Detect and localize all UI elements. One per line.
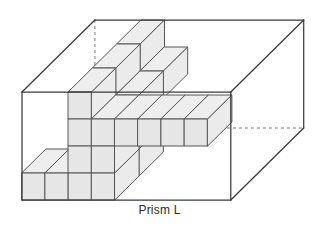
cube-face-front [115, 119, 138, 146]
cube-face-front [68, 92, 91, 119]
cube-face-front [68, 173, 91, 200]
prism-figure: Prism L [0, 0, 319, 232]
cube-face-front [22, 173, 45, 200]
cube-face-front [161, 119, 184, 146]
cube-face-front [68, 146, 91, 173]
cube-face-front [92, 146, 115, 173]
cube-face-front [184, 119, 207, 146]
prism-drawing [0, 0, 319, 232]
cube-group [22, 20, 232, 200]
box-top-right-depth-edge [231, 20, 304, 92]
box-bottom-right-depth-edge [231, 128, 304, 200]
cube-face-front [92, 119, 115, 146]
cube-face-front [68, 119, 91, 146]
figure-caption: Prism L [0, 203, 319, 217]
cube-face-front [138, 119, 161, 146]
cube-face-front [92, 173, 115, 200]
cube-face-front [45, 173, 68, 200]
